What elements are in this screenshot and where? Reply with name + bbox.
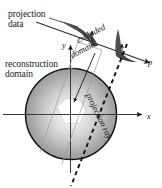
- figure-root: projection data reconstruction domain ex…: [0, 0, 162, 188]
- axis-p-label: p: [148, 58, 152, 67]
- projection-data-label-line2: data: [8, 20, 46, 30]
- axis-x-label: x: [147, 112, 151, 121]
- reconstruction-domain-label-line2: domain: [5, 70, 58, 80]
- reconstruction-domain-label: reconstruction domain: [5, 60, 58, 80]
- projection-data-label: projection data: [8, 10, 46, 30]
- axis-y-label: y: [62, 41, 66, 50]
